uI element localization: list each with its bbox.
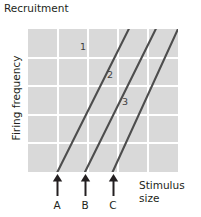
- x-axis-label-line1: Stimulus: [139, 179, 201, 192]
- page-title: Recruitment: [4, 2, 69, 15]
- marker-arrow-c: [108, 174, 119, 196]
- recruitment-line-1: [57, 29, 128, 172]
- plot-area: [28, 29, 178, 172]
- marker-arrow-b: [80, 174, 91, 196]
- x-axis-label: Stimulus size: [139, 179, 201, 204]
- x-axis-label-line2: size: [139, 192, 201, 205]
- recruitment-lines: [28, 29, 178, 172]
- marker-arrow-a: [52, 174, 63, 196]
- x-tick-label-a: A: [50, 199, 64, 211]
- x-tick-label-b: B: [78, 199, 92, 211]
- series-label-1: 1: [80, 42, 86, 52]
- y-axis-label: Firing frequency: [10, 38, 22, 158]
- series-label-3: 3: [122, 97, 128, 107]
- series-label-2: 2: [107, 70, 113, 80]
- x-tick-label-c: C: [106, 199, 120, 211]
- recruitment-figure: Recruitment Firing frequency 1 2 3 A B C…: [0, 0, 201, 217]
